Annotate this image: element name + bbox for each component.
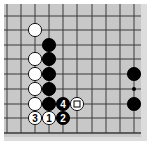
star-point-icon xyxy=(132,87,136,91)
move-number-label: 1 xyxy=(46,113,52,124)
white-stone xyxy=(28,23,41,36)
black-stone xyxy=(127,97,140,110)
white-stone xyxy=(28,82,41,95)
black-stone xyxy=(42,52,55,65)
move-number-label: 4 xyxy=(60,99,66,110)
white-stone xyxy=(28,97,41,110)
go-board: 4312 xyxy=(0,0,147,146)
white-stone-3: 3 xyxy=(28,111,41,124)
black-stone xyxy=(42,82,55,95)
black-stone xyxy=(42,67,55,80)
white-stone xyxy=(28,52,41,65)
white-stone xyxy=(28,67,41,80)
black-stone xyxy=(42,97,55,110)
move-number-label: 2 xyxy=(60,113,66,124)
star-points xyxy=(132,87,136,91)
move-number-label: 3 xyxy=(32,113,38,124)
black-stone-4: 4 xyxy=(56,97,69,110)
black-stone xyxy=(127,67,140,80)
white-stone xyxy=(70,97,83,110)
black-stone-2: 2 xyxy=(56,111,69,124)
black-stone xyxy=(42,38,55,51)
white-stone-1: 1 xyxy=(42,111,55,124)
